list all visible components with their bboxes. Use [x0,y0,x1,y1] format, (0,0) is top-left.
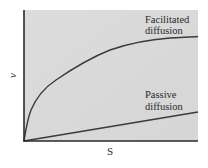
passive-label-line1: Passive [145,89,177,100]
y-axis-label: v [6,73,18,78]
diffusion-chart: Facilitated diffusion Passive diffusion … [0,0,208,168]
x-axis-label: S [107,145,113,157]
passive-label-line2: diffusion [145,101,183,112]
facilitated-label-line2: diffusion [145,25,183,36]
facilitated-label-line1: Facilitated [145,14,190,25]
